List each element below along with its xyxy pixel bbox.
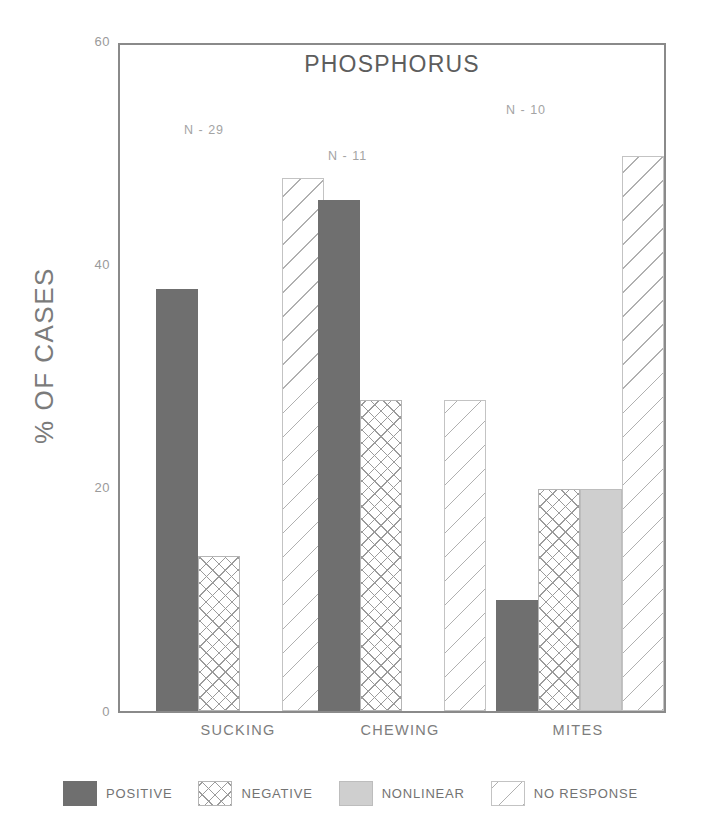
bar-sucking-positive [156, 289, 198, 711]
y-tick-40: 40 [66, 257, 110, 272]
plot-area: PHOSPHORUS N - 29 N - 11 N - 10 [118, 43, 666, 713]
x-tick-mites: MITES [553, 722, 604, 738]
x-tick-sucking: SUCKING [200, 722, 275, 738]
legend-label-noresponse: NO RESPONSE [534, 786, 638, 801]
y-tick-20: 20 [66, 480, 110, 495]
n-label-sucking: N - 29 [184, 123, 224, 137]
legend-swatch-positive-icon [63, 781, 97, 806]
bar-chewing-negative [360, 400, 402, 711]
chart-title: PHOSPHORUS [120, 51, 664, 78]
legend-swatch-nonlinear-icon [339, 781, 373, 806]
legend-item-noresponse: NO RESPONSE [491, 781, 638, 806]
legend-item-negative: NEGATIVE [198, 781, 312, 806]
bar-mites-nonlinear [580, 489, 622, 711]
bar-mites-positive [496, 600, 538, 711]
n-label-mites: N - 10 [506, 103, 546, 117]
y-tick-60: 60 [66, 34, 110, 49]
legend-label-positive: POSITIVE [106, 786, 172, 801]
bar-chewing-positive [318, 200, 360, 711]
bar-chart: 60 40 20 0 % OF CASES PHOSPHORUS N - 29 … [0, 0, 701, 831]
bar-mites-negative [538, 489, 580, 711]
y-tick-0: 0 [66, 704, 110, 719]
y-axis-title: % OF CASES [29, 226, 60, 486]
x-axis-tick-labels: SUCKING CHEWING MITES [118, 722, 666, 748]
n-label-chewing: N - 11 [328, 149, 367, 163]
legend-swatch-noresponse-icon [491, 781, 525, 806]
legend-label-negative: NEGATIVE [241, 786, 312, 801]
y-axis-tick-labels: 60 40 20 0 [62, 0, 110, 831]
legend-item-nonlinear: NONLINEAR [339, 781, 465, 806]
legend-item-positive: POSITIVE [63, 781, 172, 806]
bar-sucking-negative [198, 556, 240, 711]
legend-label-nonlinear: NONLINEAR [382, 786, 465, 801]
x-tick-chewing: CHEWING [360, 722, 439, 738]
bar-chewing-noresponse [444, 400, 486, 711]
legend-swatch-negative-icon [198, 781, 232, 806]
bar-mites-noresponse [622, 156, 664, 711]
chart-legend: POSITIVE NEGATIVE NONLINEAR NO RESPONSE [0, 776, 701, 810]
